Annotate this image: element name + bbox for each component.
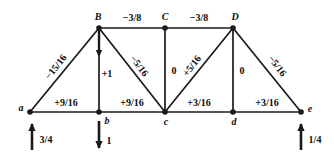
load-arrows [28,31,304,150]
joint-label-d: d [232,117,237,127]
member-force-label-c-d: +3/16 [187,98,210,108]
member-force-label-C-D: −3/8 [190,13,208,23]
joint-label-c: c [164,117,168,127]
load-arrowhead-reaction-a [28,123,35,131]
load-arrowhead-applied-load-b [95,141,102,149]
load-arrowhead-reaction-e [297,123,304,131]
truss-joint-c [162,109,168,115]
member-force-label-b-B: +1 [102,69,113,79]
truss-joint-d [230,109,236,115]
member-force-label-B-C: −3/8 [123,13,141,23]
joint-label-D: D [231,12,238,22]
member-force-label-a-b: +9/16 [54,98,77,108]
truss-force-diagram: −15/16+9/16+1−3/8−5/16+9/160−3/8+5/16+3/… [0,0,334,157]
truss-joint-D [230,25,236,31]
truss-joint-a [27,109,33,115]
joint-label-b: b [105,116,110,126]
joint-label-C: C [162,12,169,22]
joint-label-e: e [308,104,312,114]
truss-joint-e [298,109,304,115]
truss-joint-C [162,25,168,31]
joint-label-a: a [19,103,24,113]
truss-joint-b [96,109,102,115]
member-force-label-D-d: 0 [240,66,245,76]
load-magnitude-label-applied-load-b: 1 [107,136,112,146]
joint-label-B: B [95,12,102,22]
member-force-label-d-e: +3/16 [255,98,278,108]
member-force-label-b-c: +9/16 [120,98,143,108]
member-direction-arrowhead [96,50,102,57]
truss-joint-B [96,25,102,31]
load-magnitude-label-reaction-e: 1/4 [309,135,322,145]
load-magnitude-label-reaction-a: 3/4 [40,135,53,145]
member-force-label-C-c: 0 [172,66,177,76]
